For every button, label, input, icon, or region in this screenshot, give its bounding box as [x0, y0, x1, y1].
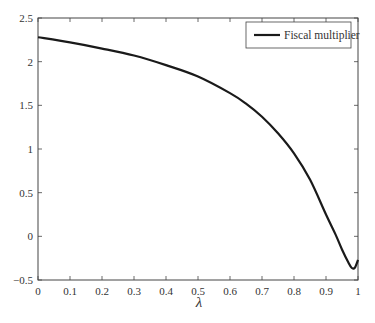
plot-area	[38, 18, 358, 280]
x-tick-label: 0.4	[159, 285, 173, 297]
x-tick-label: 0	[35, 285, 41, 297]
y-tick-label: 2.5	[19, 12, 33, 24]
x-tick-label: 0.8	[287, 285, 301, 297]
legend: Fiscal multiplier	[246, 22, 360, 48]
x-tick-label: 0.2	[95, 285, 109, 297]
legend-label: Fiscal multiplier	[284, 29, 360, 42]
fiscal-multiplier-line	[38, 37, 358, 268]
y-axis-ticks: −0.500.511.522.5	[13, 12, 358, 286]
x-tick-label: 0.9	[319, 285, 333, 297]
x-tick-label: 0.1	[63, 285, 77, 297]
y-tick-label: 2	[28, 56, 34, 68]
y-tick-label: 0.5	[19, 187, 33, 199]
x-axis-label: λ	[195, 294, 203, 310]
chart: 00.10.20.30.40.50.60.70.80.91 −0.500.511…	[0, 0, 375, 323]
y-tick-label: 0	[28, 230, 34, 242]
y-tick-label: 1	[28, 143, 34, 155]
x-tick-label: 0.6	[223, 285, 237, 297]
x-axis-ticks: 00.10.20.30.40.50.60.70.80.91	[35, 18, 361, 297]
y-tick-label: −0.5	[13, 274, 33, 286]
y-tick-label: 1.5	[19, 99, 33, 111]
x-tick-label: 1	[355, 285, 361, 297]
x-tick-label: 0.7	[255, 285, 269, 297]
x-tick-label: 0.3	[127, 285, 141, 297]
